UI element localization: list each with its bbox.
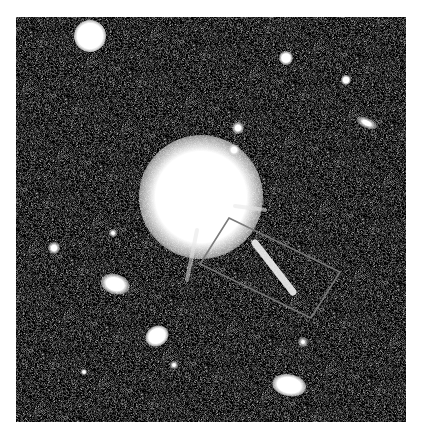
annotation-overlay	[16, 17, 406, 422]
diffraction-spike	[187, 230, 197, 280]
astronomical-photo	[16, 17, 406, 422]
diffraction-spike	[235, 206, 265, 210]
quasar-jet	[255, 243, 293, 292]
